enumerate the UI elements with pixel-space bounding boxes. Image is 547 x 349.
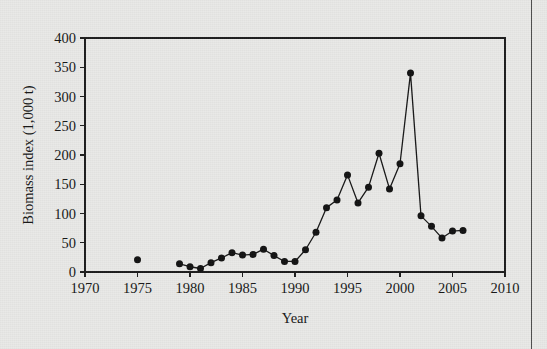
data-point (260, 246, 267, 253)
data-point (365, 184, 372, 191)
x-axis-tick-label: 1990 (281, 280, 310, 296)
data-point (239, 252, 246, 259)
x-axis-tick-label: 1980 (176, 280, 205, 296)
data-point (344, 171, 351, 178)
data-point (134, 256, 141, 263)
data-point (313, 229, 320, 236)
series-biomass-index (134, 70, 467, 272)
y-axis-tick-label: 400 (54, 30, 76, 46)
y-axis-tick-label: 200 (54, 147, 76, 163)
y-axis-tick-label: 350 (54, 59, 76, 75)
data-point (407, 70, 414, 77)
data-point (376, 150, 383, 157)
data-point (418, 212, 425, 219)
y-axis-tick-label: 250 (54, 118, 76, 134)
data-point (302, 246, 309, 253)
chart-series (134, 70, 467, 272)
data-point (386, 185, 393, 192)
y-axis-tick-label: 150 (54, 176, 76, 192)
x-axis-tick-label: 2005 (438, 280, 467, 296)
data-point (292, 258, 299, 265)
data-point (176, 260, 183, 267)
data-point (428, 223, 435, 230)
data-point (218, 254, 225, 261)
data-point (334, 197, 341, 204)
x-axis-tick-label: 2010 (491, 280, 520, 296)
y-axis-tick-label: 300 (54, 89, 76, 105)
data-point (250, 251, 257, 258)
figure-page: 0501001502002503003504001970197519801985… (0, 0, 547, 349)
chart-tick-labels: 0501001502002503003504001970197519801985… (54, 30, 519, 296)
x-axis-title: Year (282, 310, 309, 326)
chart-figure: 0501001502002503003504001970197519801985… (0, 0, 531, 349)
page-right-rule (531, 0, 532, 349)
data-point (460, 227, 467, 234)
y-axis-tick-label: 50 (62, 235, 77, 251)
data-point (229, 249, 236, 256)
data-point (323, 204, 330, 211)
data-point (197, 265, 204, 272)
biomass-index-line-chart: 0501001502002503003504001970197519801985… (0, 0, 531, 349)
x-axis-tick-label: 1975 (123, 280, 152, 296)
x-axis-tick-label: 1970 (71, 280, 100, 296)
data-point (397, 160, 404, 167)
data-point (208, 259, 215, 266)
data-point (271, 252, 278, 259)
data-point (449, 228, 456, 235)
y-axis-tick-label: 0 (69, 264, 76, 280)
y-axis-tick-label: 100 (54, 206, 76, 222)
x-axis-tick-label: 2000 (386, 280, 415, 296)
x-axis-tick-label: 1985 (228, 280, 257, 296)
data-point (281, 258, 288, 265)
y-axis-title: Biomass index (1,000 t) (20, 85, 37, 225)
data-point (355, 199, 362, 206)
data-point (187, 263, 194, 270)
series-line (180, 73, 464, 268)
x-axis-tick-label: 1995 (333, 280, 362, 296)
data-point (439, 235, 446, 242)
